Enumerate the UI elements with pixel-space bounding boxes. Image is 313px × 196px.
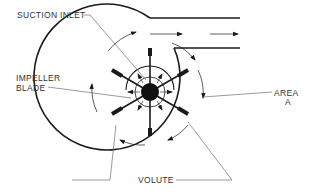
suction-inlet-label: SUCTION INLET bbox=[17, 10, 86, 20]
impeller-label-line2: BLADE bbox=[16, 83, 45, 93]
volute-label: VOLUTE bbox=[136, 175, 176, 185]
area-label-line2: A bbox=[285, 97, 291, 107]
impeller-label-line1: IMPELLER bbox=[16, 73, 60, 83]
volute-casing bbox=[34, 4, 240, 150]
impeller-hub bbox=[141, 83, 159, 101]
fan-diagram bbox=[0, 0, 313, 196]
